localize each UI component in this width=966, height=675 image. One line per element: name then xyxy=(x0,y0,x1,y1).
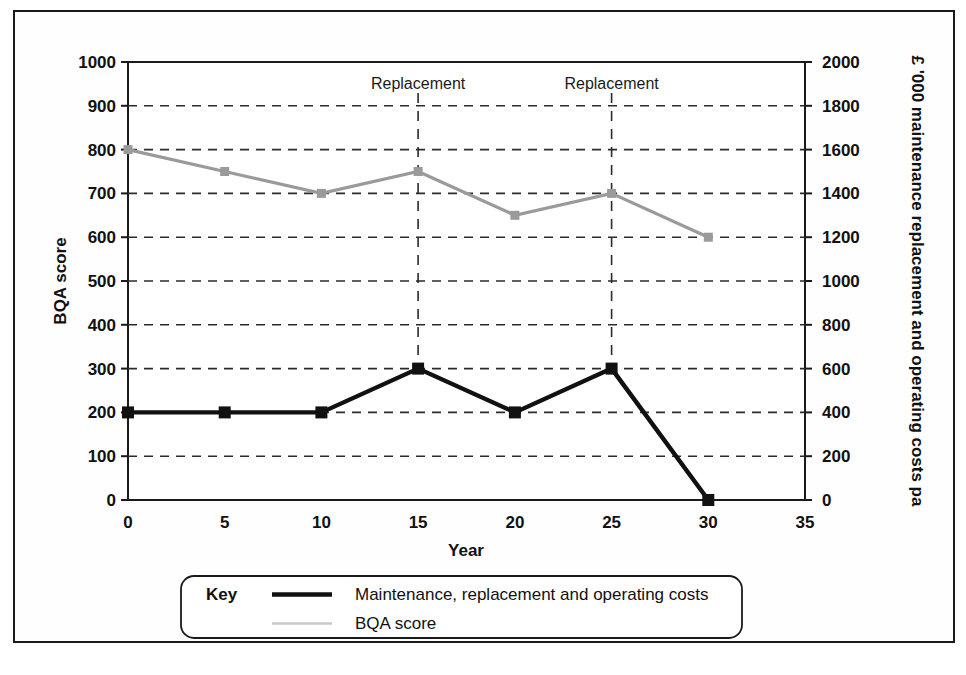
legend-key-label: Key xyxy=(206,585,238,604)
line-chart: 1000 900 800 700 600 500 400 300 200 100… xyxy=(0,0,966,675)
cost-marker-year-10 xyxy=(315,406,327,418)
y-left-tick-300: 300 xyxy=(88,360,116,379)
y-left-tick-400: 400 xyxy=(88,316,116,335)
bqa-marker-year-0 xyxy=(124,145,133,154)
x-axis-title: Year xyxy=(448,541,484,560)
legend-label-maintenance-costs[interactable]: Maintenance, replacement and operating c… xyxy=(355,585,708,604)
y-right-tick-1000: 1000 xyxy=(822,272,860,291)
y-right-tick-1600: 1600 xyxy=(822,141,860,160)
cost-marker-year-5 xyxy=(219,406,231,418)
x-tick-20: 20 xyxy=(505,513,524,532)
y-left-tick-200: 200 xyxy=(88,403,116,422)
bqa-marker-year-25 xyxy=(607,189,616,198)
y-right-tick-600: 600 xyxy=(822,360,850,379)
y-left-tick-900: 900 xyxy=(88,97,116,116)
chart-figure: 1000 900 800 700 600 500 400 300 200 100… xyxy=(0,0,966,675)
legend[interactable]: Key Maintenance, replacement and operati… xyxy=(181,576,742,638)
x-tick-0: 0 xyxy=(123,513,132,532)
y-right-tick-400: 400 xyxy=(822,403,850,422)
cost-marker-year-20 xyxy=(509,406,521,418)
y-right-tick-1800: 1800 xyxy=(822,97,860,116)
y-right-tick-1200: 1200 xyxy=(822,228,860,247)
y-right-tick-1400: 1400 xyxy=(822,184,860,203)
x-tick-25: 25 xyxy=(602,513,621,532)
y-left-tick-100: 100 xyxy=(88,447,116,466)
cost-marker-year-15 xyxy=(412,363,424,375)
cost-marker-year-25 xyxy=(606,363,618,375)
left-axis-tick-labels: 1000 900 800 700 600 500 400 300 200 100… xyxy=(78,53,116,510)
y-left-tick-700: 700 xyxy=(88,184,116,203)
y-right-tick-800: 800 xyxy=(822,316,850,335)
right-axis-tick-labels: 2000 1800 1600 1400 1200 1000 800 600 40… xyxy=(822,53,860,510)
x-tick-15: 15 xyxy=(409,513,428,532)
y-left-tick-0: 0 xyxy=(107,491,116,510)
x-tick-35: 35 xyxy=(796,513,815,532)
bqa-marker-year-30 xyxy=(704,233,713,242)
bqa-marker-year-20 xyxy=(510,211,519,220)
y-left-axis-title: BQA score xyxy=(51,237,70,324)
annotation-replacement-1: Replacement xyxy=(371,75,466,92)
y-right-tick-2000: 2000 xyxy=(822,53,860,72)
y-left-tick-500: 500 xyxy=(88,272,116,291)
bqa-marker-year-10 xyxy=(317,189,326,198)
x-tick-10: 10 xyxy=(312,513,331,532)
annotation-replacement-2: Replacement xyxy=(564,75,659,92)
x-axis-tick-labels: 0 5 10 15 20 25 30 35 xyxy=(123,513,814,532)
y-left-tick-800: 800 xyxy=(88,141,116,160)
left-axis-ticks xyxy=(121,62,128,500)
x-tick-5: 5 xyxy=(220,513,229,532)
legend-label-bqa-score[interactable]: BQA score xyxy=(355,614,436,633)
y-right-tick-0: 0 xyxy=(822,491,831,510)
y-right-tick-200: 200 xyxy=(822,447,850,466)
bqa-marker-year-5 xyxy=(220,167,229,176)
y-left-tick-600: 600 xyxy=(88,228,116,247)
bqa-marker-year-15 xyxy=(414,167,423,176)
cost-marker-year-30 xyxy=(702,494,714,506)
cost-marker-year-0 xyxy=(122,406,134,418)
right-axis-ticks xyxy=(805,62,812,500)
y-left-tick-1000: 1000 xyxy=(78,53,116,72)
x-tick-30: 30 xyxy=(699,513,718,532)
y-right-axis-title: £ '000 maintenance replacement and opera… xyxy=(908,56,927,507)
